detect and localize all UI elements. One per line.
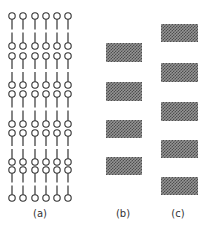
lipid-head-icon bbox=[65, 82, 71, 88]
lipid-head-icon bbox=[54, 130, 60, 136]
lipid-head-icon bbox=[20, 130, 26, 136]
panel-c-block-4 bbox=[161, 140, 198, 158]
lipid-head-icon bbox=[9, 167, 15, 173]
lipid-head-icon bbox=[9, 121, 15, 127]
lipid-head-icon bbox=[43, 159, 49, 165]
panel-c-label: (c) bbox=[171, 208, 184, 219]
lipid-head-icon bbox=[65, 159, 71, 165]
panel-b-block-1 bbox=[106, 43, 142, 62]
lipid-head-icon bbox=[54, 195, 60, 201]
lipid-head-icon bbox=[20, 13, 26, 19]
panel-b-label: (b) bbox=[116, 208, 130, 219]
lipid-head-icon bbox=[32, 159, 38, 165]
lipid-head-icon bbox=[43, 43, 49, 49]
lipid-head-icon bbox=[65, 91, 71, 97]
lipid-head-icon bbox=[32, 53, 38, 59]
lipid-head-icon bbox=[54, 43, 60, 49]
lipid-head-icon bbox=[43, 13, 49, 19]
lipid-head-icon bbox=[65, 130, 71, 136]
panel-b-block-2 bbox=[106, 82, 142, 101]
lipid-head-icon bbox=[20, 159, 26, 165]
lipid-head-icon bbox=[20, 82, 26, 88]
panel-c-block-5 bbox=[161, 177, 198, 195]
lipid-head-icon bbox=[9, 91, 15, 97]
lipid-head-icon bbox=[20, 167, 26, 173]
lipid-head-icon bbox=[43, 53, 49, 59]
lipid-head-icon bbox=[54, 167, 60, 173]
lipid-head-icon bbox=[43, 130, 49, 136]
lipid-head-icon bbox=[32, 195, 38, 201]
lipid-head-icon bbox=[43, 91, 49, 97]
lipid-head-icon bbox=[65, 53, 71, 59]
lipid-head-icon bbox=[20, 43, 26, 49]
lipid-head-icon bbox=[65, 121, 71, 127]
lipid-head-icon bbox=[32, 167, 38, 173]
lipid-head-icon bbox=[54, 91, 60, 97]
lipid-head-icon bbox=[54, 159, 60, 165]
lipid-head-icon bbox=[65, 13, 71, 19]
lipid-head-icon bbox=[65, 43, 71, 49]
lipid-head-icon bbox=[32, 82, 38, 88]
lipid-head-icon bbox=[43, 121, 49, 127]
lipid-head-icon bbox=[54, 13, 60, 19]
lipid-head-icon bbox=[9, 130, 15, 136]
lipid-head-icon bbox=[65, 167, 71, 173]
lipid-head-icon bbox=[32, 43, 38, 49]
lipid-head-icon bbox=[20, 53, 26, 59]
lipid-head-icon bbox=[9, 53, 15, 59]
lipid-head-icon bbox=[9, 195, 15, 201]
panel-c-block-1 bbox=[161, 24, 198, 42]
panel-c-block-2 bbox=[161, 63, 198, 82]
lipid-head-icon bbox=[32, 91, 38, 97]
panel-b-block-3 bbox=[106, 120, 142, 138]
lipid-head-icon bbox=[32, 13, 38, 19]
lipid-head-icon bbox=[65, 195, 71, 201]
panel-a-label: (a) bbox=[33, 208, 47, 219]
lipid-head-icon bbox=[43, 195, 49, 201]
lipid-head-icon bbox=[54, 82, 60, 88]
lipid-head-icon bbox=[54, 53, 60, 59]
lipid-head-icon bbox=[32, 130, 38, 136]
lipid-head-icon bbox=[32, 121, 38, 127]
lipid-head-icon bbox=[9, 82, 15, 88]
lipid-head-icon bbox=[9, 43, 15, 49]
panel-c-block-3 bbox=[161, 102, 198, 121]
lipid-head-icon bbox=[43, 167, 49, 173]
panel-b-block-4 bbox=[106, 157, 142, 175]
lipid-head-icon bbox=[20, 91, 26, 97]
lipid-head-icon bbox=[9, 13, 15, 19]
lipid-head-icon bbox=[54, 121, 60, 127]
lipid-head-icon bbox=[20, 121, 26, 127]
figure: (a) (b) (c) bbox=[0, 0, 206, 228]
lipid-head-icon bbox=[20, 195, 26, 201]
lipid-head-icon bbox=[43, 82, 49, 88]
lipid-head-icon bbox=[9, 159, 15, 165]
